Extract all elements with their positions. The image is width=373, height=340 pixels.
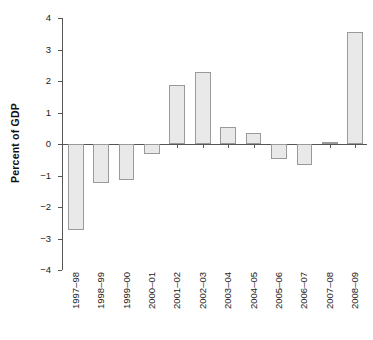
bar xyxy=(169,85,185,144)
x-axis-label-text: 1997–98 xyxy=(71,272,81,309)
x-axis-label-text: 1998–99 xyxy=(96,272,106,309)
bar xyxy=(220,127,236,144)
y-tick-label: −3 xyxy=(40,234,51,244)
y-tick: 1 xyxy=(58,113,62,114)
y-tick: 0 xyxy=(58,144,62,145)
y-tick-label: 1 xyxy=(46,108,51,118)
bar xyxy=(93,144,109,183)
y-tick: −1 xyxy=(58,176,62,177)
x-tick xyxy=(228,144,229,148)
y-tick: 4 xyxy=(58,18,62,19)
x-tick xyxy=(203,144,204,148)
x-axis-label-text: 2005–06 xyxy=(274,272,284,309)
bar xyxy=(68,144,84,230)
y-tick: 3 xyxy=(58,50,62,51)
x-axis-label-text: 1999–00 xyxy=(122,272,132,309)
x-axis-label-text: 2001–02 xyxy=(173,272,183,309)
y-tick-label: 2 xyxy=(46,76,51,86)
y-tick-label: 4 xyxy=(46,13,51,23)
x-axis-label-text: 2007–08 xyxy=(325,272,335,309)
x-axis-label-text: 2006–07 xyxy=(300,272,310,309)
x-axis-label-text: 2000–01 xyxy=(147,272,157,309)
bar xyxy=(347,32,363,144)
x-axis-label-text: 2008–09 xyxy=(351,272,361,309)
bar xyxy=(144,144,160,154)
y-tick-label: −4 xyxy=(40,265,51,275)
x-axis-label-text: 2003–04 xyxy=(223,272,233,309)
y-tick-label: −1 xyxy=(40,171,51,181)
bar xyxy=(297,144,313,165)
bar xyxy=(195,72,211,144)
bar-chart: Percent of GDP 43210−1−2−3−4 1997–981998… xyxy=(0,0,373,340)
x-axis-label-group: 1997–981998–991999–002000–012001–022002–… xyxy=(62,272,367,340)
y-tick: 2 xyxy=(58,81,62,82)
x-tick xyxy=(355,144,356,148)
y-tick: −3 xyxy=(58,239,62,240)
bar xyxy=(322,142,338,144)
y-axis-title-text: Percent of GDP xyxy=(9,103,21,183)
bar xyxy=(119,144,135,180)
bar xyxy=(246,133,262,144)
x-tick xyxy=(330,144,331,148)
x-tick xyxy=(177,144,178,148)
x-tick xyxy=(254,144,255,148)
y-axis-title: Percent of GDP xyxy=(0,0,30,285)
y-tick-label: −2 xyxy=(40,202,51,212)
y-tick-label: 0 xyxy=(46,139,51,149)
y-tick: −4 xyxy=(58,270,62,271)
x-axis-label-text: 2002–03 xyxy=(198,272,208,309)
bar xyxy=(271,144,287,159)
y-tick: −2 xyxy=(58,207,62,208)
plot-area: 43210−1−2−3−4 xyxy=(62,18,367,270)
x-axis-label-text: 2004–05 xyxy=(249,272,259,309)
y-tick-label: 3 xyxy=(46,45,51,55)
